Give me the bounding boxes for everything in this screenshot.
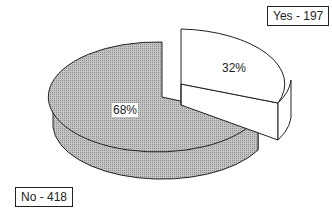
percent-label-no: 68% [112,103,138,117]
percent-label-yes: 32% [222,61,246,75]
legend-label-yes: Yes - 197 [267,6,329,26]
pie-chart [0,0,332,217]
legend-label-no: No - 418 [15,187,73,207]
